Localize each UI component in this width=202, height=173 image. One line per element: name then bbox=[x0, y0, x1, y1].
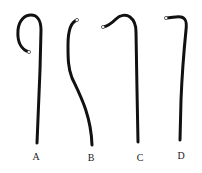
label-c: C bbox=[137, 152, 144, 163]
shape-c bbox=[101, 15, 138, 142]
tip-circle-a bbox=[27, 50, 30, 53]
shape-a bbox=[18, 15, 41, 143]
label-d: D bbox=[177, 150, 184, 161]
label-b: B bbox=[88, 152, 95, 163]
tip-circle-d bbox=[164, 16, 167, 19]
tip-circle-c bbox=[101, 25, 104, 28]
shape-b bbox=[68, 18, 92, 145]
label-a: A bbox=[32, 151, 39, 162]
shape-d bbox=[164, 16, 186, 140]
shapes-canvas bbox=[0, 0, 202, 173]
tip-circle-b bbox=[75, 18, 78, 21]
figure-diagram: A B C D bbox=[0, 0, 202, 173]
